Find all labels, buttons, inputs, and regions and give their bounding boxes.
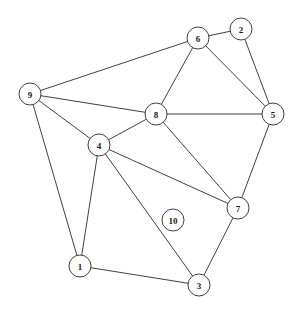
graph-node-4[interactable]: 4: [88, 134, 110, 156]
graph-node-label-1: 1: [78, 262, 83, 272]
graph-edge-8-4: [109, 119, 147, 139]
graph-node-1[interactable]: 1: [69, 255, 91, 277]
edge-layer: [33, 31, 269, 283]
graph-edge-6-5: [206, 46, 266, 106]
graph-node-label-5: 5: [271, 110, 276, 120]
graph-node-5[interactable]: 5: [262, 103, 284, 125]
graph-edge-9-4: [39, 101, 90, 139]
graph-node-10[interactable]: 10: [162, 209, 184, 231]
graph-edge-9-8: [41, 96, 145, 113]
graph-node-label-9: 9: [28, 90, 33, 100]
graph-edge-9-1: [33, 105, 77, 256]
graph-edge-6-2: [209, 31, 230, 36]
graph-node-label-8: 8: [154, 110, 159, 120]
graph-node-label-3: 3: [197, 281, 202, 291]
graph-edge-3-7: [204, 218, 233, 275]
graph-node-6[interactable]: 6: [187, 27, 209, 49]
graph-edge-6-8: [161, 48, 192, 105]
graph-edge-8-7: [163, 122, 231, 199]
graph-node-7[interactable]: 7: [227, 197, 249, 219]
graph-diagram: 12345678910: [0, 0, 299, 310]
graph-edge-2-5: [245, 39, 269, 103]
graph-edge-1-3: [91, 268, 188, 284]
graph-node-label-10: 10: [169, 216, 179, 226]
graph-edge-5-7: [242, 124, 269, 197]
graph-edge-4-1: [82, 156, 98, 255]
graph-node-label-7: 7: [236, 204, 241, 214]
graph-edge-9-6: [40, 41, 187, 90]
graph-node-8[interactable]: 8: [145, 103, 167, 125]
graph-node-label-4: 4: [97, 141, 102, 151]
graph-node-label-2: 2: [239, 25, 244, 35]
graph-node-9[interactable]: 9: [19, 83, 41, 105]
graph-canvas: 12345678910: [0, 0, 299, 310]
graph-node-3[interactable]: 3: [188, 274, 210, 296]
graph-node-label-6: 6: [196, 34, 201, 44]
node-layer: 12345678910: [19, 18, 284, 296]
graph-node-2[interactable]: 2: [230, 18, 252, 40]
